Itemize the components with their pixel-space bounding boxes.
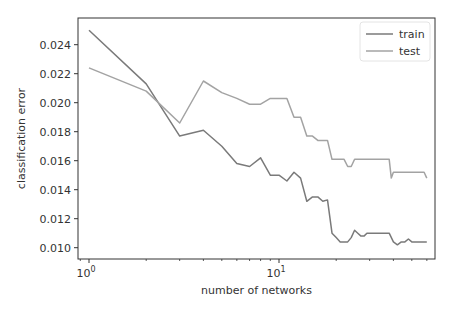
x-tick-label: 101 [266, 265, 285, 280]
legend: train test [360, 22, 430, 61]
y-tick-label: 0.024 [40, 39, 72, 52]
y-tick-label: 0.016 [40, 155, 72, 168]
y-tick-label: 0.012 [40, 213, 72, 226]
y-tick-label: 0.010 [40, 242, 72, 255]
chart: 0.0100.0120.0140.0160.0180.0200.0220.024… [0, 0, 456, 310]
series-lines [89, 30, 427, 245]
y-axis-ticks: 0.0100.0120.0140.0160.0180.0200.0220.024 [40, 39, 79, 255]
series-line-train [89, 30, 427, 245]
y-tick-label: 0.020 [40, 97, 72, 110]
y-tick-label: 0.014 [40, 184, 72, 197]
series-line-test [89, 68, 427, 178]
y-tick-label: 0.018 [40, 126, 72, 139]
y-tick-label: 0.022 [40, 68, 72, 81]
legend-label-test: test [399, 45, 421, 58]
y-axis-label: classification error [15, 87, 28, 189]
legend-label-train: train [399, 28, 425, 41]
x-axis-label: number of networks [201, 284, 312, 297]
x-axis-ticks: 100101 [76, 259, 285, 280]
x-tick-label: 100 [76, 265, 95, 280]
